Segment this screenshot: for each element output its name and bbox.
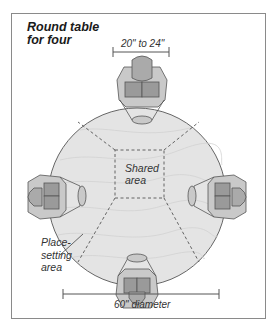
diameter-label: 60" diameter <box>114 299 170 310</box>
shared-area-label: Shared area <box>125 162 159 186</box>
person-width-label: 20" to 24" <box>121 38 164 49</box>
place-line-2: setting <box>41 249 72 262</box>
place-setting-label: Place- setting area <box>41 236 72 274</box>
shared-line-1: Shared <box>125 162 159 174</box>
place-line-1: Place- <box>41 236 72 249</box>
shared-line-2: area <box>125 174 159 186</box>
place-line-3: area <box>41 261 72 274</box>
